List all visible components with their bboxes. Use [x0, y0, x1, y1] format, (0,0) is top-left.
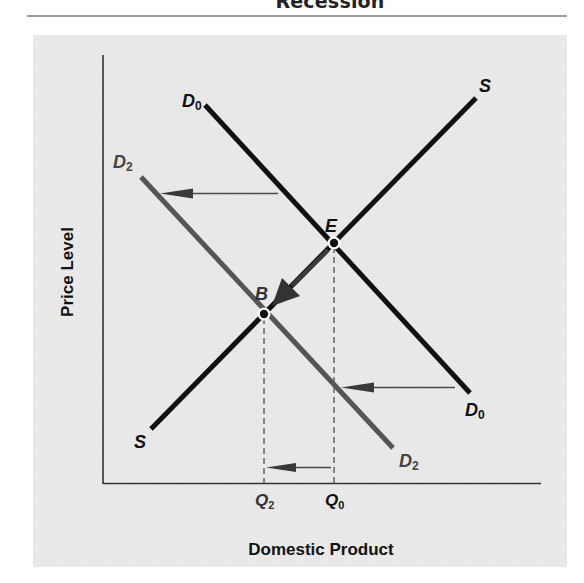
label-d2-top: D2 [113, 152, 133, 174]
label-d2-bottom: D2 [399, 451, 419, 473]
label-d0-top: D0 [182, 91, 202, 113]
equilibrium-point-b [258, 308, 271, 321]
recession-diagram: D0 D2 S E B S D0 D2 Q2 Q0 Price Level Do… [0, 0, 584, 583]
x-axis-title: Domestic Product [248, 540, 394, 559]
label-e: E [325, 216, 338, 236]
demand-curve-d0 [205, 105, 470, 393]
label-s-bottom: S [134, 432, 146, 452]
equilibrium-point-e [328, 237, 341, 250]
movement-arrow-e-to-b [272, 250, 328, 306]
label-d0-bottom: D0 [465, 400, 485, 422]
shift-arrow-lower [341, 383, 455, 393]
tick-q0: Q0 [325, 491, 344, 511]
output-change-arrow [266, 463, 331, 472]
label-s-top: S [479, 76, 491, 96]
shift-arrow-upper [160, 189, 278, 199]
y-axis-title: Price Level [58, 227, 77, 317]
tick-q2: Q2 [255, 491, 274, 511]
label-b: B [255, 284, 268, 304]
